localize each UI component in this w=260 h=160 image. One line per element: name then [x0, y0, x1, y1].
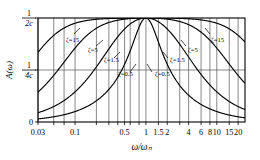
frequency-response-plot: 0.030.10.511.52468101520014c12cA(ω)ω/ωₙζ… [0, 0, 260, 160]
x-tick-label: 4 [187, 128, 191, 137]
curve-label: ζ=5 [188, 46, 198, 54]
curve-label: ζ=1.5 [170, 56, 185, 64]
chart-figure: 0.030.10.511.52468101520014c12cA(ω)ω/ωₙζ… [0, 0, 260, 160]
curve-label: ζ=5 [88, 46, 98, 54]
y-axis-title: A(ω) [4, 61, 14, 80]
curve-label: ζ=1.5 [104, 56, 119, 64]
y-tick-label-denominator: 4c [25, 71, 33, 80]
x-tick-label: 0.5 [119, 128, 129, 137]
x-tick-label: 6 [199, 128, 203, 137]
x-tick-label: 8 [208, 128, 212, 137]
y-tick-label-numerator: 1 [27, 61, 31, 70]
y-tick-label-numerator: 1 [27, 9, 31, 18]
x-tick-label: 1.5 [153, 128, 163, 137]
x-tick-label: 2 [165, 128, 169, 137]
curve-label: ζ=0.5 [118, 70, 133, 78]
curve-label: ζ=0.5 [155, 70, 170, 78]
curve-label: ζ=15 [211, 36, 225, 44]
curve-label: ζ=15 [66, 36, 80, 44]
x-tick-label: 0.1 [70, 128, 80, 137]
x-tick-label: 15 [225, 128, 233, 137]
x-tick-label: 10 [213, 128, 221, 137]
x-tick-label: 1 [144, 128, 148, 137]
y-tick-label: 0 [29, 118, 33, 127]
y-tick-label-denominator: 2c [25, 19, 33, 28]
x-axis-title: ω/ωₙ [131, 142, 151, 152]
x-tick-label: 0.03 [31, 128, 45, 137]
x-tick-label: 20 [234, 128, 242, 137]
